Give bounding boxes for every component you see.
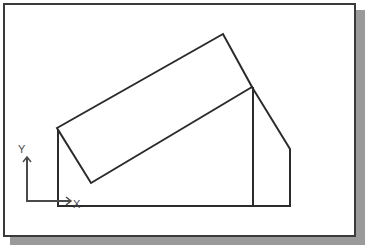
ucs-y-label: Y [18,143,26,155]
screenshot-root: Y X [0,0,369,250]
drawing-canvas[interactable]: Y X [5,5,354,235]
cad-drawing-window: Y X [3,3,356,237]
ucs-x-label: X [73,198,81,210]
